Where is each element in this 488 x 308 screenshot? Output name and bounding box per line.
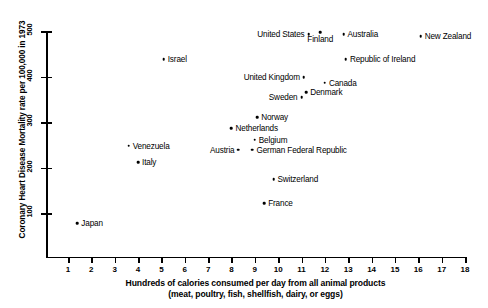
x-tick-3: [115, 257, 117, 263]
x-tick-2: [91, 257, 93, 263]
data-point-label: Venezuela: [133, 141, 170, 150]
x-tick-11: [302, 257, 304, 263]
x-tick-10: [278, 257, 280, 263]
x-tick-label-10: 10: [268, 265, 288, 274]
x-axis-title: Hundreds of calories consumed per day fr…: [46, 278, 465, 300]
x-tick-label-17: 17: [432, 265, 452, 274]
data-point-label: United Kingdom: [244, 72, 300, 81]
x-tick-label-15: 15: [385, 265, 405, 274]
data-point: [237, 148, 240, 151]
x-tick-label-8: 8: [221, 265, 241, 274]
y-tick-label-text: 300: [26, 115, 35, 127]
x-tick-label-3: 3: [105, 265, 125, 274]
y-axis-title: Coronary Heart Disease Mortality rate pe…: [18, 15, 27, 245]
data-point: [137, 161, 140, 164]
x-tick-17: [442, 257, 444, 263]
y-axis-line: [46, 31, 48, 257]
data-point: [230, 127, 233, 130]
data-point: [342, 33, 345, 36]
data-point-label: Sweden: [269, 92, 298, 101]
data-point-label: Switzerland: [278, 175, 319, 184]
data-point: [263, 202, 266, 205]
y-tick-500: [41, 31, 52, 33]
y-tick-200: [41, 168, 52, 170]
x-tick-label-6: 6: [175, 265, 195, 274]
x-tick-1: [68, 257, 70, 263]
data-point-label: France: [268, 199, 293, 208]
x-tick-7: [208, 257, 210, 263]
x-tick-label-1: 1: [58, 265, 78, 274]
data-point-label: Canada: [329, 78, 357, 87]
data-point: [272, 178, 275, 181]
x-axis-title-line-1: Hundreds of calories consumed per day fr…: [46, 278, 465, 289]
x-tick-5: [161, 257, 163, 263]
data-point: [300, 96, 303, 99]
x-tick-label-14: 14: [362, 265, 382, 274]
data-point-label: Denmark: [310, 87, 342, 96]
data-point: [251, 148, 254, 151]
x-tick-label-12: 12: [315, 265, 335, 274]
data-point-label: Belgium: [259, 135, 288, 144]
x-tick-13: [348, 257, 350, 263]
data-point-label: New Zealand: [425, 32, 472, 41]
x-tick-label-4: 4: [128, 265, 148, 274]
x-tick-label-11: 11: [292, 265, 312, 274]
data-point: [303, 76, 306, 79]
x-tick-label-16: 16: [408, 265, 428, 274]
data-point: [345, 58, 348, 61]
data-point: [127, 144, 130, 147]
x-tick-4: [138, 257, 140, 263]
x-tick-8: [231, 257, 233, 263]
y-tick-400: [41, 77, 52, 79]
data-point: [305, 91, 308, 94]
data-point: [162, 58, 165, 61]
data-point-label: Israel: [168, 55, 187, 64]
y-tick-100: [41, 213, 52, 215]
x-tick-15: [395, 257, 397, 263]
data-point-label: Norway: [261, 112, 288, 121]
y-tick-label-text: 400: [26, 69, 35, 81]
x-tick-12: [325, 257, 327, 263]
data-point-label: German Federal Republic: [256, 145, 346, 154]
y-tick-label-text: 100: [26, 206, 35, 218]
x-tick-label-5: 5: [151, 265, 171, 274]
data-point: [76, 222, 79, 225]
x-tick-16: [418, 257, 420, 263]
data-point: [419, 35, 422, 38]
x-tick-label-9: 9: [245, 265, 265, 274]
data-point-label: Republic of Ireland: [350, 55, 415, 64]
x-axis-title-line-2: (meat, poultry, fish, shellfish, dairy, …: [46, 289, 465, 300]
x-tick-14: [372, 257, 374, 263]
x-tick-6: [185, 257, 187, 263]
x-tick-label-18: 18: [455, 265, 475, 274]
data-point: [324, 82, 327, 85]
data-point-label: Italy: [142, 158, 156, 167]
data-point: [256, 116, 259, 119]
x-tick-label-7: 7: [198, 265, 218, 274]
data-point-label: Japan: [81, 219, 103, 228]
data-point-label: United States: [257, 30, 304, 39]
x-tick-label-2: 2: [81, 265, 101, 274]
scatter-plot: 100200300400500 123456789101112131415161…: [0, 0, 488, 308]
y-tick-label-text: 200: [26, 160, 35, 172]
data-point-label: Austria: [210, 145, 234, 154]
x-tick-18: [465, 257, 467, 263]
data-point-label: Australia: [348, 30, 379, 39]
y-tick-label-text: 500: [26, 24, 35, 36]
x-tick-label-13: 13: [338, 265, 358, 274]
y-tick-300: [41, 122, 52, 124]
data-point: [319, 31, 322, 34]
data-point: [254, 138, 257, 141]
data-point-label: Finland: [307, 35, 333, 44]
x-tick-9: [255, 257, 257, 263]
data-point-label: Netherlands: [235, 123, 278, 132]
